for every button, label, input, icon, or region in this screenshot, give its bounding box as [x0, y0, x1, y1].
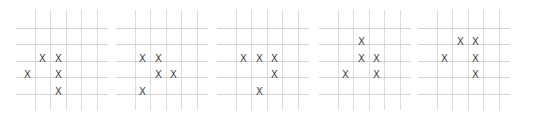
grid-panel-5: XXXXX — [418, 10, 510, 110]
live-cell-mark: X — [51, 84, 66, 100]
live-cell-mark: X — [236, 51, 251, 67]
grid-line-vertical — [384, 10, 385, 110]
grid-line-horizontal — [16, 28, 108, 29]
grid-line-horizontal — [116, 94, 208, 95]
live-cell-mark: X — [468, 67, 483, 83]
grid-line-vertical — [298, 10, 299, 110]
live-cell-mark: X — [20, 67, 35, 83]
grid-line-vertical — [400, 10, 401, 110]
grid-panel-3: XXXXX — [217, 10, 309, 110]
grid-line-horizontal — [16, 44, 108, 45]
live-cell-mark: X — [437, 51, 452, 67]
grid-line-horizontal — [418, 77, 510, 78]
live-cell-mark: X — [151, 51, 166, 67]
grid-line-horizontal — [319, 77, 411, 78]
grid-line-horizontal — [319, 94, 411, 95]
grid-panel-1: XXXXX — [16, 10, 108, 110]
grid-line-vertical — [452, 10, 453, 110]
live-cell-mark: X — [468, 51, 483, 67]
live-cell-mark: X — [354, 34, 369, 50]
grid-line-vertical — [97, 10, 98, 110]
live-cell-mark: X — [151, 67, 166, 83]
live-cell-mark: X — [166, 67, 181, 83]
live-cell-mark: X — [51, 67, 66, 83]
grid-panel-4: XXXXX — [319, 10, 411, 110]
grid-line-vertical — [166, 10, 167, 110]
grid-line-horizontal — [418, 94, 510, 95]
live-cell-mark: X — [35, 51, 50, 67]
grid-line-horizontal — [217, 44, 309, 45]
live-cell-mark: X — [252, 84, 267, 100]
live-cell-mark: X — [338, 67, 353, 83]
live-cell-mark: X — [453, 34, 468, 50]
live-cell-mark: X — [135, 51, 150, 67]
grid-line-horizontal — [217, 28, 309, 29]
live-cell-mark: X — [369, 51, 384, 67]
live-cell-mark: X — [369, 67, 384, 83]
grid-line-horizontal — [319, 28, 411, 29]
grid-line-vertical — [197, 10, 198, 110]
grid-line-vertical — [81, 10, 82, 110]
grid-line-horizontal — [116, 44, 208, 45]
grid-line-horizontal — [217, 77, 309, 78]
live-cell-mark: X — [468, 34, 483, 50]
grid-line-horizontal — [418, 28, 510, 29]
grid-line-vertical — [338, 10, 339, 110]
grid-line-vertical — [181, 10, 182, 110]
grid-line-horizontal — [418, 61, 510, 62]
live-cell-mark: X — [51, 51, 66, 67]
live-cell-mark: X — [252, 51, 267, 67]
live-cell-mark: X — [267, 67, 282, 83]
live-cell-mark: X — [267, 51, 282, 67]
grid-line-vertical — [66, 10, 67, 110]
live-cell-mark: X — [135, 84, 150, 100]
live-cell-mark: X — [354, 51, 369, 67]
grid-line-vertical — [483, 10, 484, 110]
grid-panel-2: XXXXX — [116, 10, 208, 110]
grid-line-vertical — [499, 10, 500, 110]
grid-line-vertical — [282, 10, 283, 110]
grid-line-horizontal — [116, 28, 208, 29]
